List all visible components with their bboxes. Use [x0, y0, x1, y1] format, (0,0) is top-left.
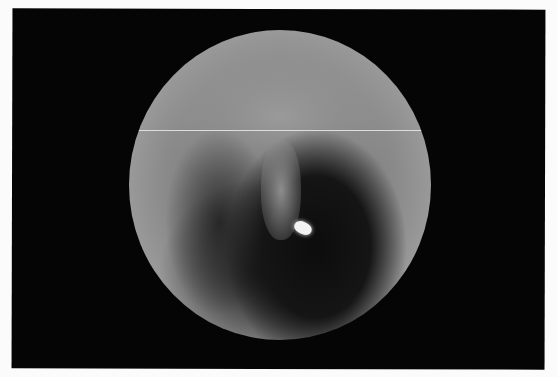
- endoscopic-view: [129, 30, 431, 340]
- scan-line-artifact: [129, 130, 431, 131]
- light-reflection: [292, 219, 313, 237]
